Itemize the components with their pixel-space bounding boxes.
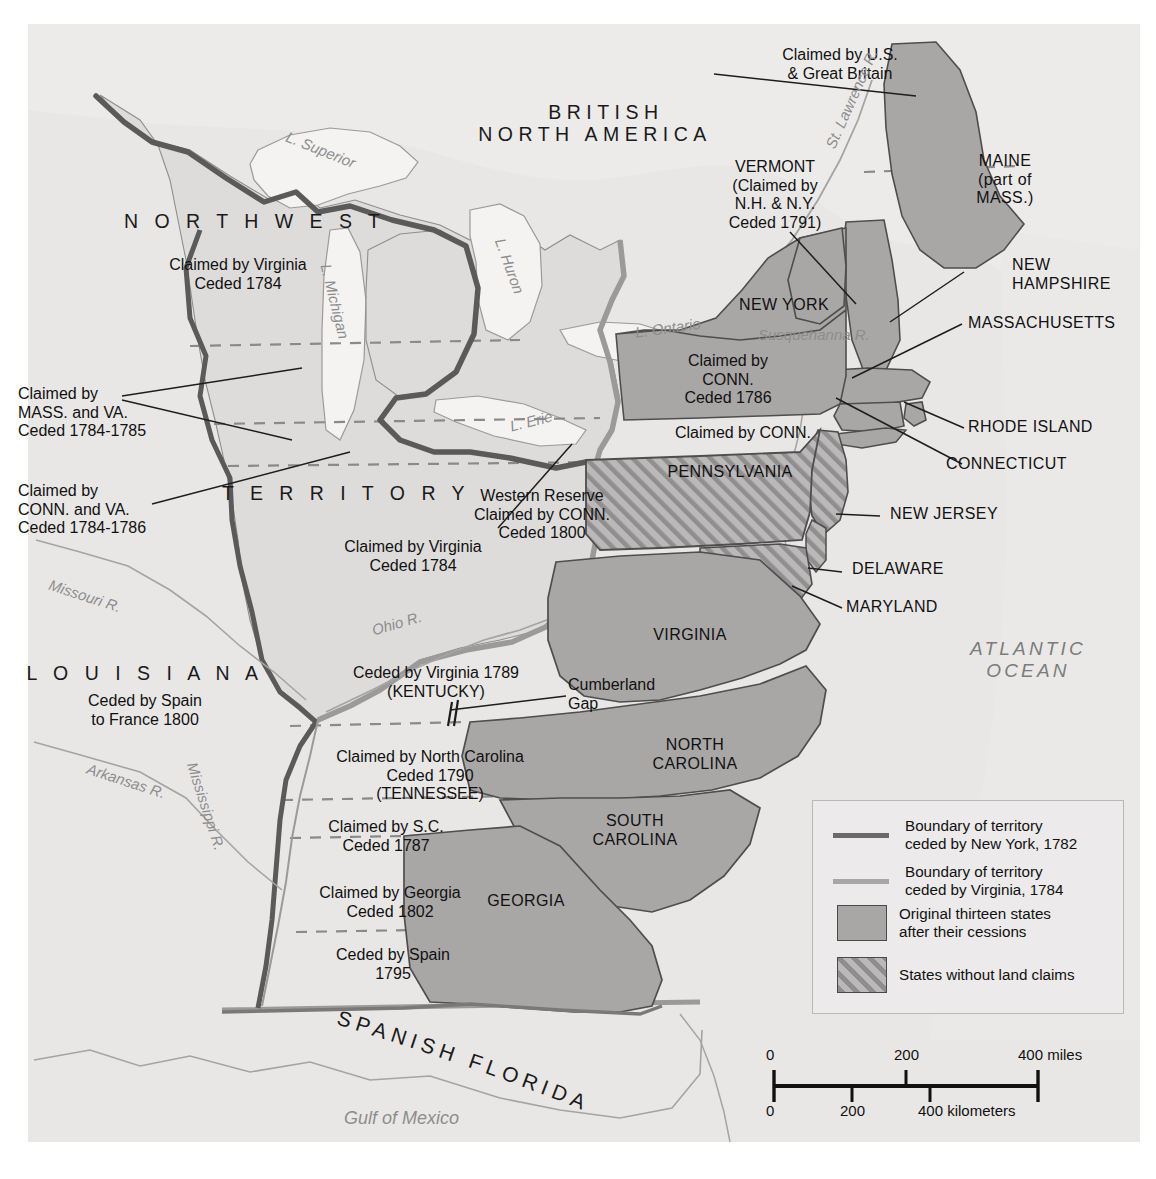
region-atlantic-ocean: ATLANTIC OCEAN	[918, 638, 1138, 682]
state-label-maine: MAINE (part of MASS.)	[940, 152, 1070, 208]
annotation-ceded-spain-1795: Ceded by Spain 1795	[288, 946, 498, 983]
scale-km-tick-0: 0	[766, 1102, 774, 1119]
state-label-new-hampshire: NEW HAMPSHIRE	[1012, 256, 1156, 293]
legend-swatch-boundary-ny-line	[833, 833, 889, 838]
annotation-claimed-nc-tennessee: Claimed by North Carolina Ceded 1790 (TE…	[280, 748, 580, 804]
legend-label-boundary-ny: Boundary of territory ceded by New York,…	[905, 817, 1077, 853]
region-louisiana: L O U I S I A N A	[20, 662, 270, 685]
state-label-south-carolina: SOUTH CAROLINA	[560, 812, 710, 849]
state-label-delaware: DELAWARE	[852, 560, 1012, 579]
legend-item-no-land-claims: States without land claims	[833, 957, 1075, 993]
state-label-connecticut: CONNECTICUT	[946, 455, 1126, 474]
state-label-pennsylvania: PENNSYLVANIA	[630, 463, 830, 482]
legend-item-boundary-va: Boundary of territory ceded by Virginia,…	[833, 863, 1063, 899]
legend-item-original-states: Original thirteen states after their ces…	[833, 905, 1051, 941]
annotation-western-reserve: Western Reserve Claimed by CONN. Ceded 1…	[442, 487, 642, 543]
annotation-claimed-mass-va: Claimed by MASS. and VA. Ceded 1784-1785	[18, 385, 248, 441]
scale-miles-tick-400: 400 miles	[1018, 1046, 1082, 1063]
annotation-claimed-conn-1786: Claimed by CONN. Ceded 1786	[656, 352, 800, 408]
legend-label-no-land-claims: States without land claims	[899, 966, 1075, 984]
svg-text:SPANISH FLORIDA: SPANISH FLORIDA	[335, 1006, 594, 1116]
scale-miles-tick-0: 0	[766, 1046, 774, 1063]
legend-swatch-no-land-claims	[837, 957, 887, 993]
legend-swatch-boundary-va-line	[833, 879, 889, 884]
annotation-claimed-virginia-territory: Claimed by Virginia Ceded 1784	[298, 538, 528, 575]
legend-swatch-original-states	[837, 905, 887, 941]
state-label-massachusetts: MASSACHUSETTS	[968, 314, 1156, 333]
annotation-claimed-sc: Claimed by S.C. Ceded 1787	[276, 818, 496, 855]
legend-label-original-states: Original thirteen states after their ces…	[899, 905, 1051, 941]
scale-km-tick-200: 200	[840, 1102, 865, 1119]
state-label-new-jersey: NEW JERSEY	[890, 505, 1070, 524]
state-label-new-york: NEW YORK	[714, 296, 854, 315]
scale-miles-tick-200: 200	[894, 1046, 919, 1063]
region-british-north-america: BRITISH NORTH AMERICA	[450, 78, 740, 146]
state-label-maryland: MARYLAND	[846, 598, 1006, 617]
annotation-cumberland-gap: Cumberland Gap	[568, 676, 698, 713]
legend-item-boundary-ny: Boundary of territory ceded by New York,…	[833, 817, 1077, 853]
state-label-virginia: VIRGINIA	[620, 626, 760, 645]
scale-km-tick-400: 400 kilometers	[918, 1102, 1016, 1119]
map-scale-bar: 0 200 400 miles 0 200 400 kilometers	[760, 1040, 1120, 1126]
water-label-gulf-of-mexico: Gulf of Mexico	[344, 1108, 459, 1129]
annotation-claimed-conn-va: Claimed by CONN. and VA. Ceded 1784-1786	[18, 482, 248, 538]
region-northwest: N O R T H W E S T	[124, 210, 384, 233]
water-label-susquehanna-river: Susquehanna R.	[758, 326, 870, 343]
annotation-claimed-conn-pennsylvania: Claimed by CONN.	[628, 424, 858, 443]
region-territory: T E R R I T O R Y	[212, 482, 480, 505]
annotation-louisiana-sub: Ceded by Spain to France 1800	[20, 692, 270, 729]
map-figure: BRITISH NORTH AMERICA N O R T H W E S T …	[0, 0, 1156, 1179]
annotation-vermont: VERMONT (Claimed by N.H. & N.Y. Ceded 17…	[680, 158, 870, 232]
map-legend: Boundary of territory ceded by New York,…	[812, 800, 1124, 1014]
state-label-georgia: GEORGIA	[456, 892, 596, 911]
legend-label-boundary-va: Boundary of territory ceded by Virginia,…	[905, 863, 1063, 899]
state-label-north-carolina: NORTH CAROLINA	[620, 736, 770, 773]
annotation-ceded-virginia-kentucky: Ceded by Virginia 1789 (KENTUCKY)	[296, 664, 576, 701]
state-label-rhode-island: RHODE ISLAND	[968, 418, 1148, 437]
annotation-claimed-us-gb: Claimed by U.S. & Great Britain	[740, 46, 940, 83]
